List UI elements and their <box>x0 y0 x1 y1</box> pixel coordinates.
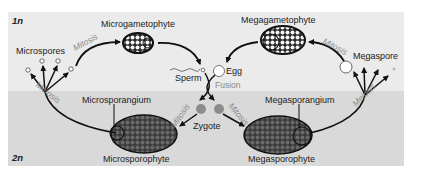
label-microgametophyte: Microgametophyte <box>101 19 175 29</box>
label-egg: Egg <box>226 66 242 76</box>
megagametophyte-shape <box>261 26 305 54</box>
region-label-1n: 1n <box>12 15 23 26</box>
label-zygote: Zygote <box>193 121 221 131</box>
label-microsporangium: Microsporangium <box>82 95 151 105</box>
region-label-2n: 2n <box>11 152 23 163</box>
label-sperm: Sperm <box>175 73 202 83</box>
label-megaspore: Megaspore <box>353 51 398 61</box>
egg <box>214 66 225 77</box>
label-megagametophyte: Megagametophyte <box>241 15 316 25</box>
label-megasporophyte: Megasporophyte <box>248 154 315 164</box>
label-megasporangium: Megasporangium <box>265 95 335 105</box>
life-cycle-diagram: Mitosis Mitosis Meiosis Meiosis Mitosis … <box>0 0 423 175</box>
microgametophyte-shape <box>123 33 153 53</box>
label-microspores: Microspores <box>16 46 66 56</box>
label-microsporophyte: Microsporophyte <box>103 154 170 164</box>
process-fusion: Fusion <box>215 80 241 90</box>
